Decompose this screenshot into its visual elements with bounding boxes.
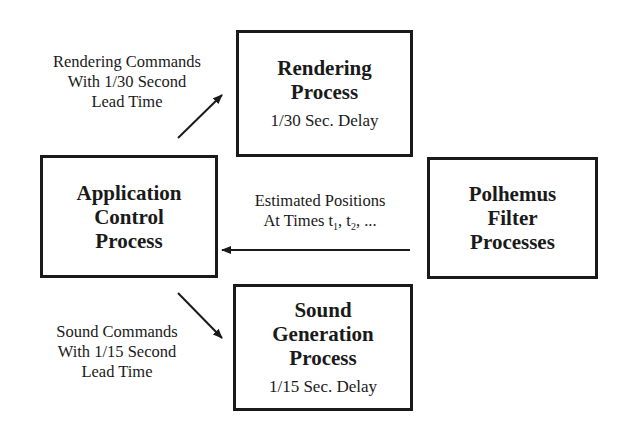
rendering-process-box: Rendering Process 1/30 Sec. Delay [236, 30, 413, 157]
rendering-delay: 1/30 Sec. Delay [270, 110, 378, 132]
title-line: Process [277, 80, 372, 104]
label-text: , ... [356, 211, 377, 230]
polhemus-filter-processes-box: Polhemus Filter Processes [427, 157, 598, 279]
application-control-process-title: Application Control Process [76, 181, 181, 253]
label-line: Lead Time [22, 92, 232, 112]
application-control-process-box: Application Control Process [40, 155, 218, 278]
label-line: Lead Time [22, 362, 212, 382]
title-line: Filter [469, 206, 557, 230]
label-line: Rendering Commands [22, 52, 232, 72]
title-line: Process [76, 229, 181, 253]
label-line: Sound Commands [22, 322, 212, 342]
sound-commands-label: Sound Commands With 1/15 Second Lead Tim… [22, 322, 212, 382]
sound-delay: 1/15 Sec. Delay [269, 376, 377, 398]
title-line: Control [76, 205, 181, 229]
label-line: With 1/30 Second [22, 72, 232, 92]
label-line: With 1/15 Second [22, 342, 212, 362]
title-line: Polhemus [469, 182, 557, 206]
estimated-positions-label: Estimated Positions At Times t1, t2, ... [222, 191, 418, 237]
label-line: At Times t1, t2, ... [222, 211, 418, 237]
title-line: Process [272, 346, 373, 370]
rendering-commands-label: Rendering Commands With 1/30 Second Lead… [22, 52, 232, 112]
title-line: Rendering [277, 56, 372, 80]
label-line: Estimated Positions [222, 191, 418, 211]
label-text: At Times t [263, 211, 333, 230]
label-text: , t [338, 211, 351, 230]
sound-generation-process-title: Sound Generation Process [272, 298, 373, 370]
title-line: Application [76, 181, 181, 205]
title-line: Sound [272, 298, 373, 322]
sound-generation-process-box: Sound Generation Process 1/15 Sec. Delay [233, 284, 413, 411]
title-line: Generation [272, 322, 373, 346]
polhemus-filter-processes-title: Polhemus Filter Processes [469, 182, 557, 254]
title-line: Processes [469, 230, 557, 254]
rendering-process-title: Rendering Process [277, 56, 372, 104]
